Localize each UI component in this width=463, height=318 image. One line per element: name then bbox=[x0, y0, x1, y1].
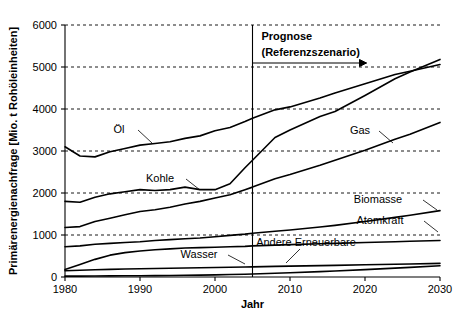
prognose-label-line2: (Referenzszenario) bbox=[262, 46, 361, 58]
x-tick-label-2030: 2030 bbox=[428, 283, 452, 295]
x-tick-label-1980: 1980 bbox=[53, 283, 77, 295]
y-tick-label-4000: 4000 bbox=[33, 103, 57, 115]
leader-line-gas bbox=[379, 131, 393, 143]
chart-canvas: 0100020003000400050006000198019902000201… bbox=[0, 0, 463, 318]
x-tick-label-2010: 2010 bbox=[278, 283, 302, 295]
series-label-gas: Gas bbox=[350, 124, 371, 136]
series-label-andere-erneuerbare: Andere Erneuerbare bbox=[256, 236, 356, 248]
y-tick-label-3000: 3000 bbox=[33, 145, 57, 157]
x-axis-title: Jahr bbox=[241, 298, 265, 310]
leader-line-biomasse bbox=[423, 200, 437, 210]
leader-line-atomkraft bbox=[424, 221, 438, 232]
series-label-wasser: Wasser bbox=[181, 248, 218, 260]
x-tick-label-2000: 2000 bbox=[203, 283, 227, 295]
series-label--l: Öl bbox=[114, 123, 125, 135]
y-axis-ticks: 0100020003000400050006000 bbox=[33, 19, 65, 283]
x-axis-ticks: 198019902000201020202030 bbox=[53, 277, 452, 295]
series-label-kohle: Kohle bbox=[146, 172, 174, 184]
y-axis-title: Primärenergienachfrage [Mio. t Rohöleinh… bbox=[7, 27, 19, 275]
y-tick-label-2000: 2000 bbox=[33, 187, 57, 199]
y-tick-label-0: 0 bbox=[51, 271, 57, 283]
leader-line-wasser bbox=[228, 255, 245, 264]
leader-line-andere-erneuerbare bbox=[286, 249, 300, 263]
y-tick-label-6000: 6000 bbox=[33, 19, 57, 31]
y-tick-label-5000: 5000 bbox=[33, 61, 57, 73]
primary-energy-demand-chart: 0100020003000400050006000198019902000201… bbox=[0, 0, 463, 318]
prognose-label-line1: Prognose bbox=[262, 30, 313, 42]
leader-line--l bbox=[138, 130, 152, 143]
series-label-atomkraft: Atomkraft bbox=[356, 214, 403, 226]
x-tick-label-2020: 2020 bbox=[353, 283, 377, 295]
series-labels: ÖlKohleGasBiomasseAtomkraftWasserAndere … bbox=[114, 123, 439, 264]
series-label-biomasse: Biomasse bbox=[354, 193, 402, 205]
prognose-arrow-head bbox=[360, 60, 367, 67]
y-tick-label-1000: 1000 bbox=[33, 229, 57, 241]
x-tick-label-1990: 1990 bbox=[128, 283, 152, 295]
